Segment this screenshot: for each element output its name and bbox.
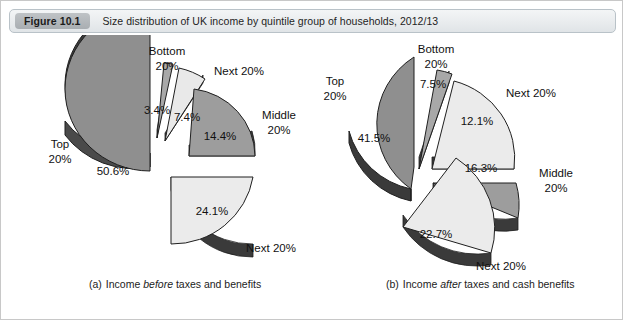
pie-chart-before-taxes: 50.6% 3.4% 7.4% 14.4% 24.1% Top 20% Bott… [7, 35, 318, 279]
caption-b-emphasis: after [440, 278, 461, 290]
group-label-bottom-b-line2: 20% [424, 58, 447, 70]
group-label-next2-a: Next 20% [246, 242, 296, 254]
group-label-bottom-a-line2: 20% [155, 60, 178, 72]
caption-b: (b)Income after taxes and cash benefits [386, 278, 574, 290]
pie-svg-a: 50.6% 3.4% 7.4% 14.4% 24.1% Top 20% Bott… [7, 35, 318, 279]
slice-top-b [377, 57, 414, 189]
group-label-next1-a: Next 20% [214, 65, 264, 77]
group-label-bottom-a-line1: Bottom [149, 45, 185, 57]
pie-chart-after-taxes: 41.5% 7.5% 12.1% 16.3% 22.7% Top 20% Bot… [311, 35, 622, 279]
charts-region: 50.6% 3.4% 7.4% 14.4% 24.1% Top 20% Bott… [1, 35, 623, 279]
figure-title: Size distribution of UK income by quinti… [103, 15, 439, 27]
value-label-bottom-a: 3.4% [144, 104, 170, 116]
group-label-middle-a-line2: 20% [267, 124, 290, 136]
caption-b-tag: (b) [386, 278, 399, 290]
caption-a: (a)Income before taxes and benefits [89, 278, 261, 290]
group-label-top-a-line2: 20% [48, 153, 71, 165]
value-label-top-a: 50.6% [97, 165, 130, 177]
group-label-middle-a-line1: Middle [262, 109, 296, 121]
value-label-next2-a: 24.1% [196, 205, 229, 217]
figure-number-badge: Figure 10.1 [15, 13, 90, 30]
figure-container: Figure 10.1 Size distribution of UK inco… [0, 0, 623, 320]
pie-svg-b: 41.5% 7.5% 12.1% 16.3% 22.7% Top 20% Bot… [311, 35, 622, 279]
value-label-middle-b: 16.3% [465, 162, 498, 174]
figure-header: Figure 10.1 Size distribution of UK inco… [9, 9, 616, 33]
group-label-top-a-line1: Top [51, 138, 70, 150]
value-label-middle-a: 14.4% [204, 130, 237, 142]
group-label-next2-b: Next 20% [476, 260, 526, 272]
caption-a-pre: Income [106, 278, 143, 290]
group-label-top-b-line1: Top [326, 75, 345, 87]
value-label-bottom-b: 7.5% [420, 78, 446, 90]
value-label-next1-b: 12.1% [461, 115, 494, 127]
group-label-middle-b-line1: Middle [539, 167, 573, 179]
caption-a-tag: (a) [89, 278, 102, 290]
caption-b-post: taxes and cash benefits [461, 278, 574, 290]
caption-b-pre: Income [403, 278, 440, 290]
value-label-top-b: 41.5% [358, 132, 391, 144]
group-label-middle-b-line2: 20% [544, 182, 567, 194]
group-label-bottom-b-line1: Bottom [418, 43, 454, 55]
caption-a-post: taxes and benefits [173, 278, 261, 290]
captions-region: (a)Income before taxes and benefits (b)I… [1, 278, 623, 304]
value-label-next2-b: 22.7% [420, 228, 453, 240]
group-label-top-b-line2: 20% [323, 90, 346, 102]
caption-a-emphasis: before [143, 278, 173, 290]
slice-top-a [65, 35, 150, 171]
group-label-next1-b: Next 20% [506, 87, 556, 99]
value-label-next1-a: 7.4% [174, 111, 200, 123]
